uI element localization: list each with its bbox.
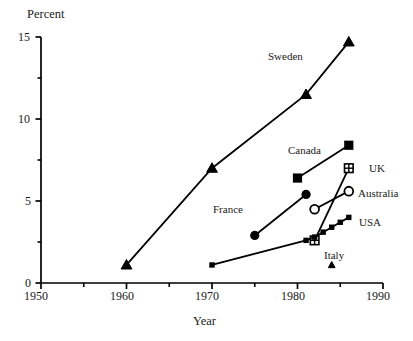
y-tick-label-0: 0 [25, 277, 31, 289]
series-label-italy: Italy [324, 250, 344, 261]
series-canada-marker [293, 173, 302, 182]
series-usa-marker [320, 229, 325, 234]
series-sweden-marker [343, 37, 354, 46]
series-france-marker [301, 190, 310, 199]
series-australia-marker [344, 187, 353, 196]
x-tick-label-1960: 1960 [110, 290, 134, 302]
y-axis-title: Percent [27, 8, 64, 21]
series-label-france: France [213, 204, 243, 215]
axis-spines [41, 37, 383, 283]
y-tick-label-10: 10 [18, 113, 30, 125]
series-italy-marker [328, 262, 335, 268]
series-australia-marker [310, 205, 319, 214]
y-tick-label-5: 5 [25, 195, 31, 207]
x-tick-label-1990: 1990 [366, 290, 390, 302]
y-tick-label-15: 15 [18, 31, 30, 43]
x-tick-label-1950: 1950 [24, 290, 48, 302]
series-usa-marker [303, 238, 308, 243]
x-axis-title: Year [193, 315, 216, 328]
x-tick-label-1980: 1980 [281, 290, 305, 302]
series-usa-marker [209, 262, 214, 267]
chart-container: Percent Year 15 10 5 0 1950 1960 1970 19… [0, 0, 413, 341]
series-usa-marker [329, 225, 334, 230]
series-label-usa: USA [359, 217, 381, 228]
series-label-uk: UK [369, 163, 385, 174]
series-label-sweden: Sweden [268, 51, 303, 62]
series-usa-marker [338, 220, 343, 225]
series-australia-line [315, 191, 349, 209]
x-tick-label-1970: 1970 [195, 290, 219, 302]
series-label-australia: Australia [358, 188, 398, 199]
series-usa-marker [346, 215, 351, 220]
series-france-marker [250, 231, 259, 240]
series-usa-marker [312, 234, 317, 239]
series-canada-marker [344, 141, 353, 150]
series-france-line [255, 194, 306, 235]
series-label-canada: Canada [288, 145, 321, 156]
